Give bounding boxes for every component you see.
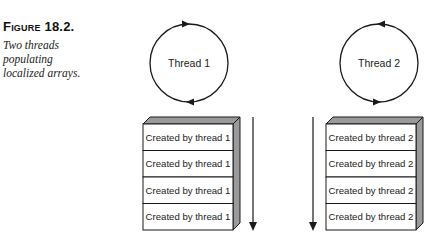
array-cell-label: Created by thread 1 (146, 185, 231, 196)
array-cell-label: Created by thread 1 (146, 158, 231, 169)
array-cell-label: Created by thread 2 (329, 158, 414, 169)
cycle-arrow-icon (373, 99, 381, 106)
thread-1-label: Thread 1 (168, 57, 210, 69)
arrow-down-icon (309, 222, 317, 231)
array-2-side-bevel (416, 117, 423, 230)
cycle-arrow-icon (377, 21, 385, 28)
array-cell-label: Created by thread 2 (329, 132, 414, 143)
array-cell-label: Created by thread 2 (329, 185, 414, 196)
thread-2-group: Thread 2 Created by thread 2 Created by … (309, 21, 423, 232)
cycle-arrow-icon (182, 21, 190, 28)
cycle-arrow-icon (186, 99, 194, 106)
array-1: Created by thread 1 Created by thread 1 … (143, 124, 233, 230)
array-2-top-bevel (326, 117, 423, 124)
thread-1-group: Thread 1 Created by thread 1 Created by … (143, 21, 257, 232)
array-1-side-bevel (233, 117, 240, 230)
thread-diagram: Thread 1 Created by thread 1 Created by … (0, 0, 445, 239)
array-cell-label: Created by thread 2 (329, 211, 414, 222)
array-1-top-bevel (143, 117, 240, 124)
arrow-down-icon (249, 222, 257, 231)
thread-2-label: Thread 2 (358, 57, 400, 69)
array-cell-label: Created by thread 1 (146, 132, 231, 143)
array-cell-label: Created by thread 1 (146, 211, 231, 222)
array-2: Created by thread 2 Created by thread 2 … (326, 124, 416, 230)
